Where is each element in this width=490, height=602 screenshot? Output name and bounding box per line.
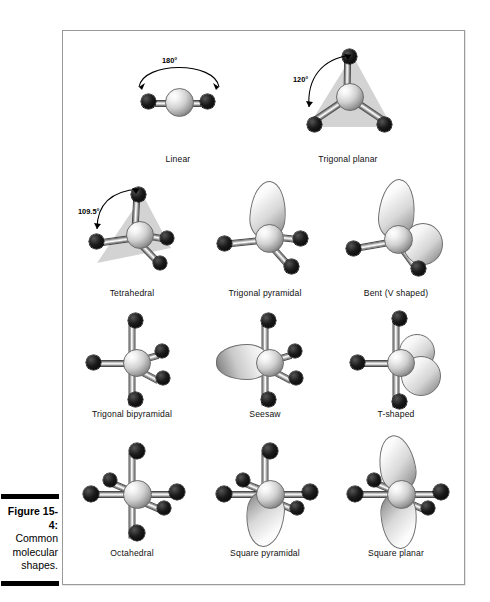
bonded-atom (128, 392, 143, 407)
shape-label-square-planar: Square planar (329, 548, 463, 558)
caption-figure-number: Figure 15-4: (0, 505, 58, 532)
bonded-atom (83, 486, 99, 502)
bonded-atom (284, 259, 299, 274)
bonded-atom (290, 501, 304, 515)
central-atom (387, 349, 415, 377)
diagram-trigonal-pyramidal (198, 179, 332, 287)
shape-cell-square-planar: Square planar (329, 437, 463, 558)
shapes-grid: 180° Linear 120 (63, 31, 464, 584)
bonded-atom (392, 394, 407, 409)
diagram-bent (329, 179, 463, 287)
central-atom (123, 349, 151, 377)
bonded-atom (350, 355, 365, 370)
central-atom (256, 349, 284, 377)
bonded-atom (157, 501, 171, 515)
shape-cell-trigonal-pyramidal: Trigonal pyramidal (198, 179, 332, 298)
angle-label-trigonal-planar: 120° (293, 75, 308, 84)
bonded-atom (288, 344, 302, 358)
shape-label-square-pyramidal: Square pyramidal (198, 548, 332, 558)
shape-label-tetrahedral: Tetrahedral (65, 288, 199, 298)
bonded-atom (392, 311, 407, 326)
bonded-atom (261, 392, 276, 407)
bonded-atom (216, 486, 232, 502)
diagram-square-pyramidal (198, 437, 332, 547)
central-atom (256, 480, 285, 509)
shape-cell-seesaw: Seesaw (198, 308, 332, 419)
diagram-trigonal-planar: 120° (281, 39, 415, 153)
shape-cell-linear: 180° Linear (111, 45, 245, 164)
diagram-trigonal-bipyramidal (65, 308, 199, 408)
bonded-atom (156, 371, 170, 385)
diagram-seesaw (198, 308, 332, 408)
bonded-atom (289, 371, 303, 385)
bonded-atom (347, 486, 363, 502)
bonded-atom (293, 231, 308, 246)
central-atom (384, 225, 413, 254)
diagram-linear: 180° (111, 45, 245, 153)
shape-label-t-shaped: T-shaped (329, 409, 463, 419)
shape-cell-trigonal-planar: 120° Trigonal planar (281, 39, 415, 164)
bonded-atom (377, 117, 392, 132)
shape-cell-tetrahedral: 109.5° Tetrahedral (65, 179, 199, 298)
bonded-atom (236, 473, 250, 487)
figure-page: Figure 15-4: Common molecular shapes. 18… (0, 0, 490, 602)
shape-cell-bent: Bent (V shaped) (329, 179, 463, 298)
shape-label-trigonal-bipyramidal: Trigonal bipyramidal (65, 409, 199, 419)
diagram-tetrahedral: 109.5° (65, 179, 199, 287)
central-atom (255, 224, 284, 253)
bonded-atom (169, 484, 185, 500)
bonded-atom (302, 484, 318, 500)
shape-label-octahedral: Octahedral (65, 548, 199, 558)
shape-label-trigonal-pyramidal: Trigonal pyramidal (198, 288, 332, 298)
caption-line-2: Common (0, 532, 58, 546)
bonded-atom (200, 94, 215, 109)
diagram-octahedral (65, 437, 199, 547)
bonded-atom (160, 231, 174, 245)
shape-label-trigonal-planar: Trigonal planar (281, 154, 415, 164)
bonded-atom (307, 117, 322, 132)
bonded-atom (86, 355, 101, 370)
bonded-atom (129, 525, 145, 541)
caption-line-3: molecular (0, 546, 58, 560)
angle-label-tetrahedral: 109.5° (78, 207, 99, 216)
angle-arc-icon (133, 53, 225, 93)
shape-cell-trigonal-bipyramidal: Trigonal bipyramidal (65, 308, 199, 419)
bonded-atom (217, 236, 232, 251)
bonded-atom (411, 261, 426, 276)
shape-cell-octahedral: Octahedral (65, 437, 199, 558)
shape-label-bent: Bent (V shaped) (329, 288, 463, 298)
caption-line-4: shapes. (0, 559, 58, 573)
shape-label-linear: Linear (111, 154, 245, 164)
bonded-atom (155, 344, 169, 358)
bonded-atom (103, 473, 117, 487)
shape-cell-square-pyramidal: Square pyramidal (198, 437, 332, 558)
bonded-atom (261, 313, 276, 328)
bonded-atom (433, 484, 449, 500)
bonded-atom (346, 241, 361, 256)
diagram-t-shaped (329, 308, 463, 408)
central-atom (387, 480, 416, 509)
caption-text: Figure 15-4: Common molecular shapes. (0, 499, 60, 577)
bonded-atom (153, 256, 167, 270)
bonded-atom (262, 443, 278, 459)
bonded-atom (141, 94, 156, 109)
shape-cell-t-shaped: T-shaped (329, 308, 463, 419)
bonded-atom (129, 443, 145, 459)
diagram-square-planar (329, 437, 463, 547)
central-atom (123, 480, 152, 509)
bonded-atom (421, 501, 435, 515)
figure-frame: 180° Linear 120 (62, 30, 465, 585)
shape-label-seesaw: Seesaw (198, 409, 332, 419)
bonded-atom (367, 473, 381, 487)
angle-label-linear: 180° (162, 56, 177, 65)
figure-caption: Figure 15-4: Common molecular shapes. (0, 494, 60, 586)
bonded-atom (128, 313, 143, 328)
caption-rule-bottom (1, 581, 59, 586)
